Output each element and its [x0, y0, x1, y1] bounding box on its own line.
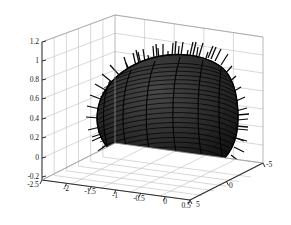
x-tick-label: -1.5 — [76, 188, 104, 196]
x-tick-label: 0 — [154, 198, 176, 206]
z-tick-label: 0.6 — [30, 95, 39, 103]
x-tick-label: -0.5 — [125, 195, 153, 203]
z-tick-label: 0.8 — [30, 76, 39, 84]
figure-canvas: 1.2 1 0.8 0.6 0.4 0.2 0 -0.2 -2.5 -2 -1.… — [0, 0, 291, 225]
z-tick-label: 0 — [35, 154, 39, 162]
y-tick-label: 5 — [196, 201, 200, 209]
x-tick-label: -1 — [103, 192, 127, 200]
z-tick-label: 0.2 — [30, 134, 39, 142]
x-tick-label: 0.5 — [174, 202, 198, 210]
plot-svg — [0, 0, 291, 225]
y-ticks — [190, 163, 265, 204]
z-tick-label: 1 — [35, 57, 39, 65]
x-tick-label: -2.5 — [20, 181, 46, 189]
z-tick-label: 0.4 — [30, 115, 39, 123]
y-tick-label: -5 — [266, 161, 272, 169]
z-tick-label: 1.2 — [30, 38, 39, 46]
y-tick-label: 0 — [229, 182, 233, 190]
